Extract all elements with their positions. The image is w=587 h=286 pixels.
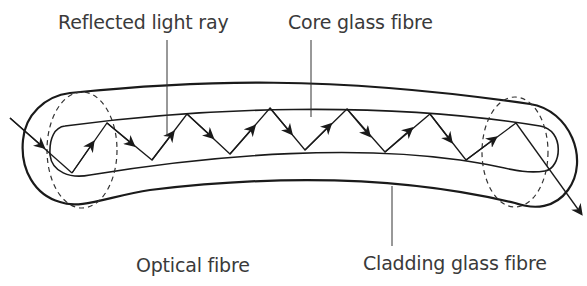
- label-cladding-glass-fibre: Cladding glass fibre: [363, 252, 547, 274]
- left-cross-section-dashed: [47, 92, 117, 208]
- label-optical-fibre: Optical fibre: [136, 254, 250, 276]
- label-reflected-light-ray: Reflected light ray: [58, 11, 228, 33]
- core-outline: [50, 109, 558, 176]
- entry-ray-arrow: [10, 118, 42, 146]
- label-core-glass-fibre: Core glass fibre: [288, 11, 433, 33]
- optical-fibre-diagram: [0, 0, 587, 286]
- right-cross-section-dashed: [482, 97, 548, 207]
